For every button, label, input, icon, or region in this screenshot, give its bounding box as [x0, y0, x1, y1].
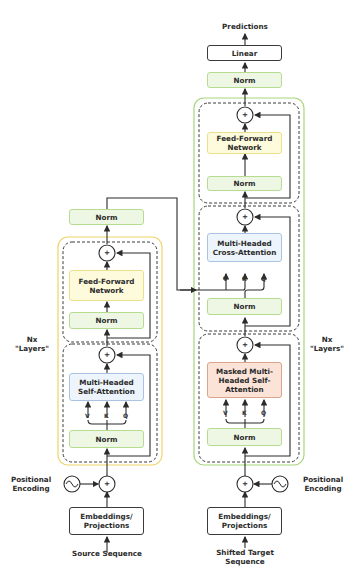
add-symbol: + [239, 340, 251, 349]
key-input-label: K [242, 409, 247, 416]
value-input-label: V [223, 409, 228, 416]
masked-attention-label: Masked Multi-Headed Self-Attention [208, 367, 281, 394]
encoder-ffn-norm: Norm [69, 312, 144, 329]
ffn-label: Feed-Forward Network [70, 277, 143, 295]
decoder-cross-norm: Norm [207, 298, 282, 315]
query-input-label: Q [123, 412, 128, 419]
decoder-positional-label: Positional Encoding [291, 475, 355, 493]
embeddings-label: Embeddings/ Projections [208, 512, 281, 530]
decoder-embeddings-box: Embeddings/ Projections [207, 507, 282, 535]
query-input-label: Q [261, 409, 266, 416]
encoder-final-norm: Norm [69, 209, 144, 225]
value-input-label: V [85, 412, 90, 419]
add-symbol: + [101, 479, 113, 488]
norm-label: Norm [234, 76, 256, 85]
query-input-label: Q [261, 275, 266, 282]
cross-attention-box: Multi-Headed Cross-Attention [207, 233, 282, 262]
add-symbol: + [239, 479, 251, 488]
decoder-ffn-norm: Norm [207, 176, 282, 191]
encoder-embeddings-box: Embeddings/ Projections [69, 507, 144, 535]
connector-layer [0, 0, 361, 588]
encoder-positional-label: Positional Encoding [0, 475, 62, 493]
add-symbol: + [239, 212, 251, 221]
encoder-ffn-box: Feed-Forward Network [69, 270, 144, 301]
encoder-input-label: Source Sequence [62, 549, 152, 558]
norm-label: Norm [234, 433, 256, 442]
encoder-attn-norm: Norm [69, 430, 144, 448]
embeddings-label: Embeddings/ Projections [70, 512, 143, 530]
decoder-layers-label: Nx "Layers" [305, 335, 349, 353]
add-symbol: + [101, 350, 113, 359]
norm-label: Norm [96, 316, 118, 325]
norm-label: Norm [234, 179, 256, 188]
key-input-label: K [104, 412, 109, 419]
decoder-masked-norm: Norm [207, 428, 282, 446]
norm-label: Norm [96, 213, 118, 222]
ffn-label: Feed-Forward Network [208, 134, 281, 152]
norm-label: Norm [96, 435, 118, 444]
value-input-label: V [223, 275, 228, 282]
predictions-label: Predictions [205, 22, 285, 31]
add-symbol: + [239, 110, 251, 119]
key-input-label: K [242, 275, 247, 282]
norm-label: Norm [234, 302, 256, 311]
decoder-ffn-box: Feed-Forward Network [207, 132, 282, 154]
add-symbol: + [101, 248, 113, 257]
decoder-input-label: Shifted Target Sequence [205, 548, 285, 566]
linear-label: Linear [232, 49, 257, 58]
linear-box: Linear [207, 45, 282, 61]
encoder-layers-label: Nx "Layers" [10, 335, 54, 353]
decoder-final-norm: Norm [207, 72, 282, 88]
masked-attention-box: Masked Multi-Headed Self-Attention [207, 362, 282, 398]
self-attention-label: Multi-Headed Self-Attention [70, 378, 143, 396]
cross-attention-label: Multi-Headed Cross-Attention [208, 239, 281, 257]
self-attention-box: Multi-Headed Self-Attention [69, 373, 144, 401]
